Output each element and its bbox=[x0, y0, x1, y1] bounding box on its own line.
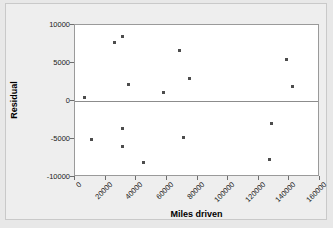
x-axis-label: Miles driven bbox=[74, 209, 319, 219]
data-point bbox=[162, 91, 165, 94]
data-point bbox=[127, 83, 130, 86]
data-point bbox=[90, 138, 93, 141]
data-point bbox=[121, 127, 124, 130]
x-axis-tick-label: 60000 bbox=[154, 180, 175, 201]
plot-frame bbox=[74, 24, 319, 176]
data-point bbox=[121, 145, 124, 148]
plot-area bbox=[75, 25, 318, 175]
x-axis-tick-label: 160000 bbox=[304, 180, 328, 204]
data-point bbox=[285, 58, 288, 61]
data-point bbox=[142, 161, 145, 164]
y-axis-tick-label: 5000 bbox=[53, 58, 70, 67]
data-point bbox=[270, 122, 273, 125]
x-axis-tick-label: 20000 bbox=[93, 180, 114, 201]
y-axis-tick-labels: -10000-50000500010000 bbox=[34, 24, 70, 176]
y-axis-label: Residual bbox=[9, 81, 19, 119]
chart-canvas: Residual -10000-50000500010000 020000400… bbox=[5, 3, 327, 220]
y-axis-tick-label: -5000 bbox=[51, 134, 70, 143]
x-axis-tick-label: 120000 bbox=[243, 180, 267, 204]
x-axis-tick-label: 0 bbox=[74, 180, 83, 189]
y-axis-tick-label: 10000 bbox=[49, 20, 70, 29]
x-axis-tick-label: 100000 bbox=[212, 180, 236, 204]
zero-reference-line bbox=[75, 101, 318, 102]
data-point bbox=[188, 77, 191, 80]
x-axis-tick-label: 80000 bbox=[185, 180, 206, 201]
y-axis-tick-label: -10000 bbox=[47, 172, 70, 181]
x-axis-tick-label: 40000 bbox=[124, 180, 145, 201]
chart-figure: Residual -10000-50000500010000 020000400… bbox=[0, 0, 333, 228]
data-point bbox=[291, 85, 294, 88]
x-axis-tick-mark bbox=[319, 176, 320, 180]
data-point bbox=[83, 96, 86, 99]
x-axis-tick-labels: 0200004000060000800001000001200001400001… bbox=[74, 180, 319, 210]
data-point bbox=[121, 35, 124, 38]
data-point bbox=[178, 49, 181, 52]
data-point bbox=[268, 158, 271, 161]
data-point bbox=[113, 41, 116, 44]
x-axis-tick-label: 140000 bbox=[274, 180, 298, 204]
data-point bbox=[182, 136, 185, 139]
